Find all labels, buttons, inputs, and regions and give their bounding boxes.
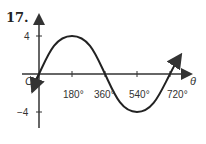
x-tick-720: 720°: [167, 89, 188, 100]
x-tick-540: 540°: [129, 89, 150, 100]
x-tick-360: 360°: [94, 89, 115, 100]
sine-graph: 4 −4 O 180° 360° 540° 720° θ: [0, 0, 206, 144]
origin-label: O: [25, 75, 34, 87]
y-tick-4: 4: [24, 31, 30, 42]
y-tick-neg4: −4: [17, 107, 29, 118]
theta-label: θ: [190, 75, 196, 87]
x-tick-180: 180°: [63, 89, 84, 100]
